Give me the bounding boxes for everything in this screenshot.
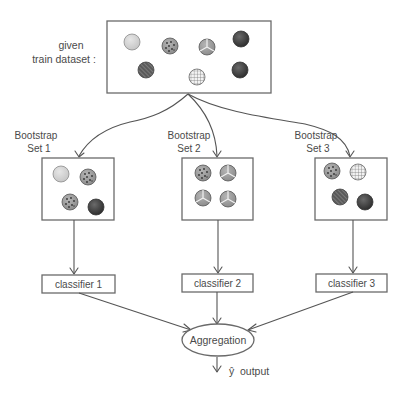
dataset-label-line1: given (58, 39, 83, 51)
sample-striped-icon (138, 62, 154, 78)
bootstrap-set-3-label-line2: Set 3 (306, 143, 330, 154)
edge-to-set-1 (79, 94, 188, 156)
bootstrap-set-1-label-line2: Set 1 (27, 143, 51, 154)
bagging-diagram: given train dataset : Bootstrap Set 1 Bo… (0, 0, 406, 394)
sample-grid-icon (350, 164, 366, 180)
classifier-1-label: classifier 1 (55, 279, 103, 290)
sample-tri-segment-icon (199, 39, 215, 55)
bootstrap-set-2-box (182, 158, 253, 220)
bootstrap-set-3-label-line1: Bootstrap (295, 130, 338, 141)
sample-tri-segment-icon (195, 190, 211, 206)
sample-light-icon (124, 34, 140, 50)
sample-dotted-icon (80, 169, 96, 185)
train-dataset-box (107, 21, 271, 93)
classifier-2: classifier 2 (182, 274, 253, 292)
sample-dark-icon (232, 62, 248, 78)
classifier-3-label: classifier 3 (328, 278, 376, 289)
classifier-3: classifier 3 (316, 274, 387, 292)
sample-dark-icon (88, 199, 104, 215)
bootstrap-set-1: Bootstrap Set 1 (15, 130, 114, 220)
sample-striped-icon (332, 189, 348, 205)
sample-dotted-icon (62, 194, 78, 210)
sample-dotted-icon (195, 165, 211, 181)
sample-dark-icon (233, 31, 249, 47)
bootstrap-set-1-label-line1: Bootstrap (15, 130, 58, 141)
sample-tri-segment-icon (220, 191, 236, 207)
bootstrap-set-2: Bootstrap Set 2 (168, 130, 253, 220)
sample-dotted-icon (162, 38, 178, 54)
sample-dotted-icon (324, 163, 340, 179)
sample-tri-segment-icon (220, 165, 236, 181)
classifier-2-label: classifier 2 (194, 278, 242, 289)
classifier-1: classifier 1 (42, 275, 115, 293)
sample-light-icon (53, 166, 69, 182)
bootstrap-set-2-label-line1: Bootstrap (168, 130, 211, 141)
aggregation: Aggregation (182, 324, 254, 356)
arrowhead-icon (75, 151, 84, 157)
aggregation-label: Aggregation (190, 334, 247, 346)
output: ŷ output (213, 357, 269, 377)
classifier-edges (70, 220, 357, 274)
y-hat-symbol: ŷ (229, 365, 235, 377)
dataset-label-line2: train dataset : (32, 53, 96, 65)
output-symbol: ŷ (229, 365, 235, 377)
sample-grid-icon (189, 69, 205, 85)
bootstrap-set-2-label-line2: Set 2 (177, 143, 201, 154)
output-label: output (240, 365, 269, 377)
sample-dark-icon (357, 194, 373, 210)
bootstrap-set-3: Bootstrap Set 3 (295, 130, 387, 220)
dataset-label: given train dataset : (32, 39, 96, 65)
